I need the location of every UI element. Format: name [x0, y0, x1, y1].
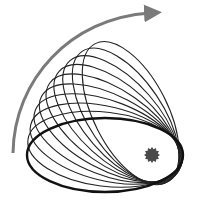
- precession-diagram: [0, 0, 197, 201]
- precession-arrow: [13, 13, 150, 153]
- orbit-ellipses: [22, 27, 197, 201]
- star-icon: [144, 147, 160, 163]
